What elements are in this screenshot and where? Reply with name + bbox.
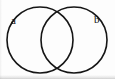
venn-diagram-figure: a b bbox=[0, 0, 115, 79]
venn-diagram-canvas bbox=[0, 0, 115, 79]
venn-label-b: b bbox=[94, 14, 100, 25]
venn-circle-a bbox=[7, 7, 73, 73]
venn-label-a: a bbox=[11, 15, 16, 26]
